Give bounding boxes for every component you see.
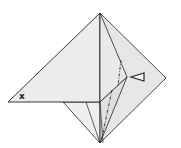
- paper-front-layer: [8, 13, 100, 102]
- corner-mark-label: x: [19, 91, 25, 101]
- origami-diagram: [0, 0, 181, 148]
- lower-flap-left: [63, 102, 100, 143]
